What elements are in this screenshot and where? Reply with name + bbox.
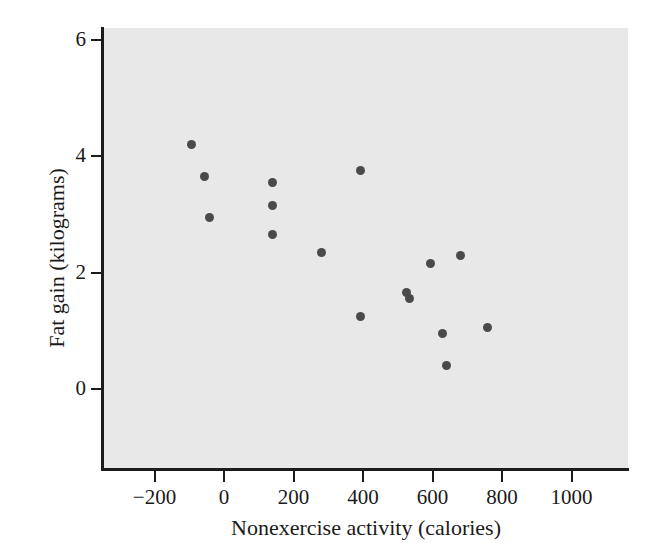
- x-tick-mark: [154, 471, 156, 482]
- y-axis-title: Fat gain (kilograms): [44, 38, 70, 478]
- data-point: [268, 178, 277, 187]
- data-point: [356, 166, 365, 175]
- data-point: [483, 323, 492, 332]
- x-axis-title: Nonexercise activity (calories): [104, 515, 628, 541]
- data-point: [205, 213, 214, 222]
- x-tick-mark: [362, 471, 364, 482]
- x-tick-mark: [501, 471, 503, 482]
- y-tick-mark: [91, 39, 102, 41]
- plot-panel: [104, 28, 628, 469]
- x-tick-mark: [293, 471, 295, 482]
- y-axis-line: [101, 27, 104, 471]
- x-tick-mark: [432, 471, 434, 482]
- data-point: [200, 172, 209, 181]
- y-tick-mark: [91, 155, 102, 157]
- y-tick-mark: [91, 272, 102, 274]
- data-point: [426, 259, 435, 268]
- scatter-plot-figure: 0246 −20002004006008001000 Nonexercise a…: [0, 0, 664, 555]
- y-tick-mark: [91, 388, 102, 390]
- x-tick-mark: [571, 471, 573, 482]
- x-axis-line: [101, 468, 629, 471]
- data-point: [187, 140, 196, 149]
- x-tick-mark: [223, 471, 225, 482]
- x-tick-label: 1000: [527, 487, 617, 508]
- data-point: [442, 361, 451, 370]
